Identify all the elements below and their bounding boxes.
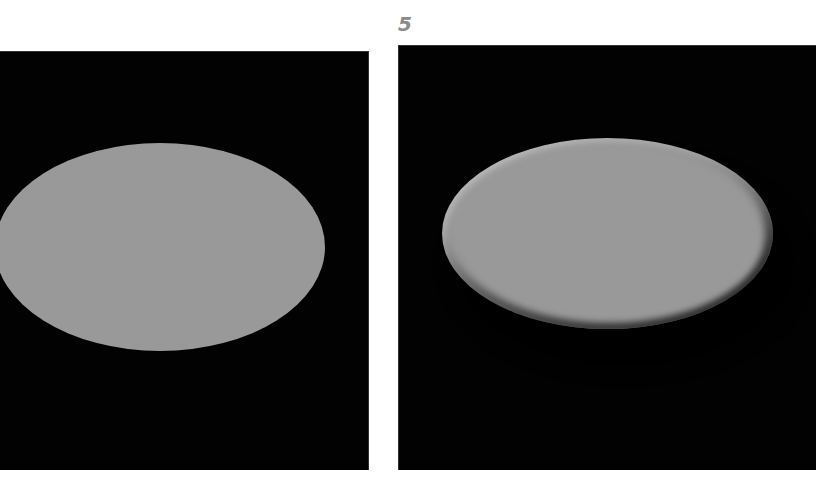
right-panel-embossed-ellipse [398, 45, 816, 470]
figure-canvas: 5 [0, 0, 816, 480]
left-panel-flat-ellipse [0, 51, 369, 470]
flat-ellipse-shape [0, 143, 325, 351]
embossed-ellipse-face [462, 157, 762, 321]
figure-number-label: 5 [398, 14, 418, 34]
